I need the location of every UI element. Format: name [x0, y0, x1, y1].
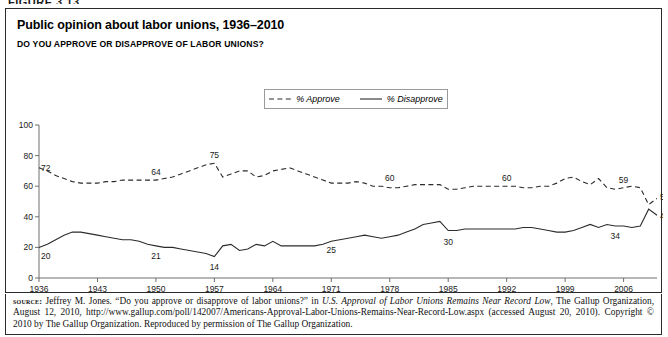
x-tick-label: 1936 [30, 284, 49, 294]
data-series-group [39, 163, 657, 256]
x-tick-label: 2006 [614, 284, 633, 294]
x-tick-label: 1964 [263, 284, 282, 294]
figure-box: Public opinion about labor unions, 1936–… [5, 8, 662, 293]
y-tick-label: 60 [24, 181, 34, 191]
source-note-text: source: Jeffrey M. Jones. “Do you approv… [13, 296, 654, 330]
data-point-label: 60 [385, 173, 395, 183]
source-part-1: Jeffrey M. Jones. “Do you approve or dis… [42, 296, 322, 306]
y-tick-label: 40 [24, 212, 34, 222]
data-point-labels: 7264756060595220211425303441 [41, 150, 663, 271]
figure-number-label: FIGURE 3.13 [8, 0, 80, 4]
x-tick-label: 1971 [322, 284, 341, 294]
data-point-label: 72 [41, 163, 51, 173]
data-point-label: 64 [151, 167, 161, 177]
series-line-approve [39, 163, 657, 204]
data-point-label: 20 [41, 251, 51, 261]
data-point-label: 41 [660, 211, 663, 221]
data-point-label: 14 [210, 262, 220, 272]
data-point-label: 30 [443, 237, 453, 247]
data-point-label: 25 [327, 245, 337, 255]
y-tick-label: 100 [19, 120, 33, 130]
y-axis: 020406080100 [19, 120, 39, 283]
source-prefix: source: [13, 297, 42, 306]
data-point-label: 60 [502, 173, 512, 183]
chart-plot-area: 020406080100 193619431950195719641971197… [6, 9, 663, 294]
y-tick-label: 20 [24, 242, 34, 252]
x-tick-label: 1978 [380, 284, 399, 294]
x-axis: 1936194319501957196419711978198519921999… [30, 278, 657, 294]
data-point-label: 75 [210, 150, 220, 160]
source-note-box: source: Jeffrey M. Jones. “Do you approv… [5, 294, 662, 335]
x-tick-label: 1999 [556, 284, 575, 294]
data-point-label: 59 [619, 175, 629, 185]
x-tick-label: 1992 [497, 284, 516, 294]
x-tick-label: 1957 [205, 284, 224, 294]
data-point-label: 21 [151, 251, 161, 261]
x-tick-label: 1985 [439, 284, 458, 294]
source-italic-title: U.S. Approval of Labor Unions Remains Ne… [322, 296, 551, 306]
series-line-disapprove [39, 209, 657, 256]
x-tick-label: 1943 [88, 284, 107, 294]
data-point-label: 34 [611, 231, 621, 241]
x-tick-label: 1950 [146, 284, 165, 294]
y-tick-label: 0 [28, 273, 33, 283]
data-point-label: 52 [660, 192, 663, 202]
y-tick-label: 80 [24, 151, 34, 161]
